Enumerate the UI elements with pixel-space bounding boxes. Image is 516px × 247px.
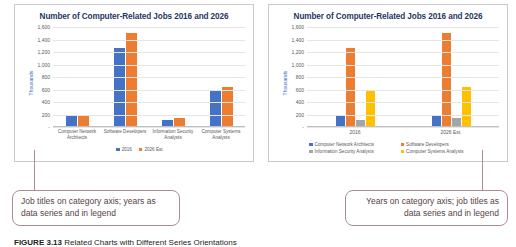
y-axis-tick: 1,400 bbox=[37, 37, 50, 43]
y-axis-tick: 600 bbox=[42, 87, 50, 93]
category-label: 2016 bbox=[307, 129, 403, 136]
bar[interactable] bbox=[356, 120, 365, 126]
y-axis-tick: 600 bbox=[296, 87, 304, 93]
bar[interactable] bbox=[336, 116, 345, 126]
gridline: 1,600 bbox=[53, 27, 245, 28]
legend-item[interactable]: Information Security Analysts bbox=[309, 149, 394, 154]
legend-label: Computer Systems Analysts bbox=[406, 149, 463, 154]
bar[interactable] bbox=[432, 115, 441, 126]
legend-label: 2016 bbox=[122, 147, 132, 152]
y-axis-label-right: Thousands bbox=[282, 71, 288, 96]
y-axis-tick: - bbox=[302, 124, 304, 130]
gridline: 800 bbox=[307, 77, 499, 78]
bar[interactable] bbox=[126, 33, 137, 126]
bar[interactable] bbox=[452, 118, 461, 126]
y-axis-tick: 1,400 bbox=[291, 37, 304, 43]
gridline: 400 bbox=[53, 102, 245, 103]
legend-swatch-icon bbox=[401, 150, 405, 154]
gridline: 200 bbox=[53, 115, 245, 116]
y-axis-tick: 1,600 bbox=[37, 24, 50, 30]
bar[interactable] bbox=[162, 120, 173, 126]
legend-item[interactable]: Computer Systems Analysts bbox=[401, 149, 486, 154]
callout-right: Years on category axis; job titles as da… bbox=[345, 190, 508, 226]
y-axis-tick: 1,200 bbox=[291, 49, 304, 55]
y-axis-label-left: Thousands bbox=[28, 71, 34, 96]
gridline: 1,600 bbox=[307, 27, 499, 28]
bar[interactable] bbox=[78, 115, 89, 126]
category-axis-right: 20162026 Est. bbox=[307, 129, 499, 136]
gridline: 1,200 bbox=[53, 52, 245, 53]
gridline: 1,400 bbox=[307, 40, 499, 41]
legend-label: Computer Network Architects bbox=[315, 142, 374, 147]
legend-left: 20162026 Est. bbox=[35, 147, 245, 152]
legend-swatch-icon bbox=[309, 143, 313, 147]
gridline: - bbox=[53, 127, 245, 128]
legend-right: Computer Network ArchitectsSoftware Deve… bbox=[309, 142, 489, 154]
chart-panel-left: Number of Computer-Related Jobs 2016 and… bbox=[14, 4, 254, 162]
legend-item[interactable]: Software Developers bbox=[401, 142, 486, 147]
figure-caption: FIGURE 3.13 Related Charts with Differen… bbox=[14, 238, 237, 247]
legend-label: Information Security Analysts bbox=[315, 149, 374, 154]
y-axis-tick: 800 bbox=[296, 74, 304, 80]
y-axis-tick: 1,600 bbox=[291, 24, 304, 30]
y-axis-tick: 800 bbox=[42, 74, 50, 80]
chart-title-left: Number of Computer-Related Jobs 2016 and… bbox=[15, 12, 253, 21]
legend-swatch-icon bbox=[401, 143, 405, 147]
y-axis-tick: 1,000 bbox=[37, 62, 50, 68]
legend-item[interactable]: 2016 bbox=[116, 147, 132, 152]
callout-leader-right bbox=[482, 150, 483, 190]
bar[interactable] bbox=[174, 118, 185, 126]
chart-panel-right: Number of Computer-Related Jobs 2016 and… bbox=[268, 4, 508, 162]
callout-left: Job titles on category axis; years as da… bbox=[12, 190, 180, 226]
bar[interactable] bbox=[210, 90, 221, 126]
legend-label: Software Developers bbox=[406, 142, 449, 147]
y-axis-tick: 1,200 bbox=[37, 49, 50, 55]
gridline: 600 bbox=[53, 90, 245, 91]
y-axis-tick: 1,000 bbox=[291, 62, 304, 68]
y-axis-tick: 400 bbox=[42, 99, 50, 105]
figure-page: Number of Computer-Related Jobs 2016 and… bbox=[0, 0, 516, 247]
legend-label: 2026 Est. bbox=[144, 147, 163, 152]
legend-swatch-icon bbox=[116, 148, 120, 152]
gridline: 1,400 bbox=[53, 40, 245, 41]
gridline: - bbox=[307, 127, 499, 128]
category-label: Computer Systems Analysts bbox=[197, 129, 245, 141]
category-label: Computer Network Architects bbox=[53, 129, 101, 141]
bar[interactable] bbox=[462, 87, 471, 126]
y-axis-tick: 200 bbox=[42, 112, 50, 118]
gridline: 1,000 bbox=[307, 65, 499, 66]
gridline: 800 bbox=[53, 77, 245, 78]
category-label: 2026 Est. bbox=[403, 129, 499, 136]
category-axis-left: Computer Network ArchitectsSoftware Deve… bbox=[53, 129, 245, 141]
gridline: 200 bbox=[307, 115, 499, 116]
y-axis-tick: - bbox=[48, 124, 50, 130]
gridline: 400 bbox=[307, 102, 499, 103]
gridline: 1,200 bbox=[307, 52, 499, 53]
figure-caption-text: Related Charts with Different Series Ori… bbox=[64, 238, 236, 247]
legend-item[interactable]: Computer Network Architects bbox=[309, 142, 394, 147]
legend-item[interactable]: 2026 Est. bbox=[139, 147, 164, 152]
bar[interactable] bbox=[222, 87, 233, 126]
legend-swatch-icon bbox=[309, 150, 313, 154]
plot-area-right: 1,6001,4001,2001,000800600400200- bbox=[307, 27, 499, 127]
gridline: 1,000 bbox=[53, 65, 245, 66]
bar[interactable] bbox=[442, 33, 451, 126]
gridline: 600 bbox=[307, 90, 499, 91]
y-axis-tick: 400 bbox=[296, 99, 304, 105]
category-label: Software Developers bbox=[101, 129, 149, 141]
bar[interactable] bbox=[366, 90, 375, 126]
bar[interactable] bbox=[66, 116, 77, 126]
y-axis-tick: 200 bbox=[296, 112, 304, 118]
plot-area-left: 1,6001,4001,2001,000800600400200- bbox=[53, 27, 245, 127]
legend-swatch-icon bbox=[139, 148, 143, 152]
chart-title-right: Number of Computer-Related Jobs 2016 and… bbox=[269, 12, 507, 21]
category-label: Information Security Analysts bbox=[149, 129, 197, 141]
callout-leader-left bbox=[34, 150, 35, 190]
figure-caption-label: FIGURE 3.13 bbox=[14, 238, 62, 247]
